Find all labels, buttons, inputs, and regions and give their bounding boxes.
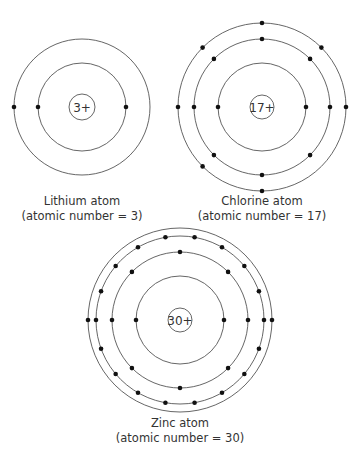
electron xyxy=(200,45,205,50)
electron xyxy=(36,105,41,110)
electron xyxy=(200,164,205,169)
electron xyxy=(176,105,181,110)
chlorine-title: Chlorine atom xyxy=(198,194,326,209)
electron xyxy=(226,270,231,275)
zinc-subtitle: (atomic number = 30) xyxy=(116,431,244,446)
electron xyxy=(212,57,217,62)
zinc-label: Zinc atom (atomic number = 30) xyxy=(116,416,244,446)
lithium-label: Lithium atom (atomic number = 3) xyxy=(21,194,142,224)
electron xyxy=(308,153,313,158)
electron xyxy=(216,105,221,110)
electron xyxy=(262,318,267,323)
lithium-title: Lithium atom xyxy=(21,194,142,209)
electron xyxy=(192,400,197,405)
electron xyxy=(257,289,262,294)
atom-diagram: 3+17+30+ xyxy=(0,0,363,464)
chlorine-subtitle: (atomic number = 17) xyxy=(198,209,326,224)
electron xyxy=(260,173,265,178)
electron xyxy=(110,318,115,323)
electron xyxy=(246,318,251,323)
electron xyxy=(220,390,225,395)
chlorine-label: Chlorine atom (atomic number = 17) xyxy=(198,194,326,224)
electron xyxy=(12,105,17,110)
electron xyxy=(212,153,217,158)
electron xyxy=(113,264,118,269)
electron xyxy=(163,235,168,240)
electron xyxy=(130,270,135,275)
electron xyxy=(220,245,225,250)
electron xyxy=(99,289,104,294)
electron xyxy=(192,235,197,240)
electron xyxy=(113,372,118,377)
electron xyxy=(242,264,247,269)
electron xyxy=(178,386,183,391)
electron xyxy=(99,346,104,351)
electron xyxy=(260,189,265,194)
electron xyxy=(242,372,247,377)
electron xyxy=(124,105,129,110)
electron xyxy=(270,318,275,323)
electron xyxy=(192,105,197,110)
electron xyxy=(226,366,231,371)
electron xyxy=(178,250,183,255)
electron xyxy=(344,105,349,110)
electron xyxy=(134,318,139,323)
electron xyxy=(130,366,135,371)
lithium-nucleus-charge: 3+ xyxy=(73,101,91,115)
electron xyxy=(308,57,313,62)
zinc-nucleus-charge: 30+ xyxy=(167,314,192,328)
electron xyxy=(319,45,324,50)
electron xyxy=(260,37,265,42)
electron xyxy=(257,346,262,351)
electron xyxy=(136,390,141,395)
electron xyxy=(86,318,91,323)
electron xyxy=(260,21,265,26)
zinc-title: Zinc atom xyxy=(116,416,244,431)
electron xyxy=(94,318,99,323)
lithium-subtitle: (atomic number = 3) xyxy=(21,209,142,224)
electron xyxy=(328,105,333,110)
electron xyxy=(136,245,141,250)
chlorine-nucleus-charge: 17+ xyxy=(249,101,274,115)
electron xyxy=(304,105,309,110)
electron xyxy=(163,400,168,405)
electron xyxy=(222,318,227,323)
